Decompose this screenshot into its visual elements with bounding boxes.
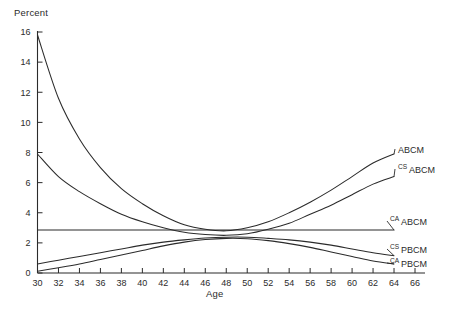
series-labels: ABCMCSABCMCAABCMCSPBCMCAPBCM — [387, 145, 435, 269]
x-tick-marks — [38, 268, 416, 273]
x-tick-label: 42 — [158, 278, 168, 288]
x-tick-label: 50 — [242, 278, 252, 288]
series-label-main: ABCM — [409, 165, 435, 175]
y-tick-label: 4 — [25, 208, 30, 218]
y-tick-label: 12 — [20, 88, 30, 98]
series-label-prefix: CA — [390, 257, 400, 264]
y-tick-label: 10 — [20, 118, 30, 128]
series-label-cs-pbcm: CSPBCM — [390, 243, 427, 255]
curve-cs-abcm — [38, 154, 395, 235]
x-axis-group: 30323436384042444648505254565860626466 — [32, 268, 425, 288]
x-tick-label: 32 — [53, 278, 63, 288]
x-tick-label: 44 — [179, 278, 189, 288]
leader-line-ca-abcm — [387, 221, 394, 230]
x-tick-label: 54 — [284, 278, 294, 288]
x-tick-label: 62 — [368, 278, 378, 288]
x-tick-label: 46 — [200, 278, 210, 288]
leader-line-abcm — [394, 149, 395, 154]
series-label-prefix: CS — [390, 243, 400, 250]
line-chart-plot: 0246810121416 30323436384042444648505254… — [0, 0, 450, 311]
series-label-ca-abcm: CAABCM — [390, 215, 427, 227]
series-label-main: ABCM — [398, 145, 424, 155]
x-tick-label: 40 — [137, 278, 147, 288]
leader-line-cs-abcm — [394, 169, 395, 177]
series-label-ca-pbcm: CAPBCM — [390, 257, 427, 269]
x-tick-label: 34 — [74, 278, 84, 288]
y-tick-labels: 0246810121416 — [20, 27, 30, 278]
y-tick-label: 16 — [20, 27, 30, 37]
x-tick-label: 64 — [389, 278, 399, 288]
y-tick-label: 14 — [20, 57, 30, 67]
y-tick-label: 2 — [25, 238, 30, 248]
y-tick-label: 0 — [25, 268, 30, 278]
y-axis-group: 0246810121416 — [20, 27, 42, 278]
x-tick-label: 56 — [305, 278, 315, 288]
x-tick-label: 52 — [263, 278, 273, 288]
x-tick-label: 66 — [410, 278, 420, 288]
data-curves — [38, 35, 395, 271]
y-tick-marks — [38, 32, 43, 273]
x-tick-labels: 30323436384042444648505254565860626466 — [32, 278, 420, 288]
series-label-main: ABCM — [401, 217, 427, 227]
chart-container: Percent Age 0246810121416 30323436384042… — [0, 0, 450, 311]
curve-abcm — [38, 35, 395, 231]
x-tick-label: 58 — [326, 278, 336, 288]
series-label-main: PBCM — [401, 245, 427, 255]
series-label-prefix: CA — [390, 215, 400, 222]
series-label-abcm: ABCM — [398, 145, 424, 155]
x-tick-label: 30 — [32, 278, 42, 288]
series-label-main: PBCM — [401, 259, 427, 269]
y-tick-label: 8 — [25, 148, 30, 158]
y-tick-label: 6 — [25, 178, 30, 188]
x-tick-label: 48 — [221, 278, 231, 288]
x-tick-label: 60 — [347, 278, 357, 288]
series-label-prefix: CS — [398, 163, 408, 170]
curve-cs-pbcm — [38, 237, 395, 264]
x-tick-label: 36 — [95, 278, 105, 288]
x-tick-label: 38 — [116, 278, 126, 288]
series-label-cs-abcm: CSABCM — [398, 163, 435, 175]
